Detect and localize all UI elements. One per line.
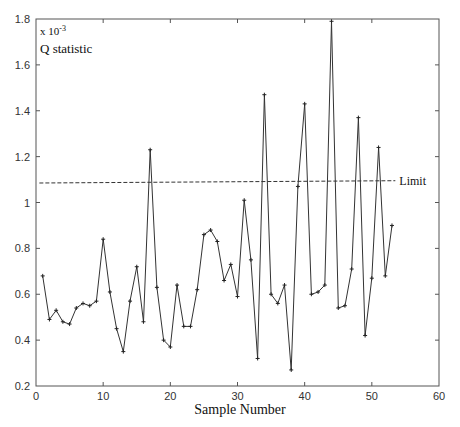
y-tick-label: 1 [24, 197, 30, 209]
y-tick-label: 1.8 [15, 13, 30, 25]
x-tick-label: 30 [231, 390, 243, 402]
x-axis-label: Sample Number [194, 402, 286, 417]
y-tick-label: 1.4 [15, 105, 30, 117]
y-quantity-label: Q statistic [40, 41, 93, 56]
x-tick-label: 50 [366, 390, 378, 402]
plot-area [36, 19, 439, 386]
y-tick-label: 1.2 [15, 151, 30, 163]
x-tick-label: 20 [164, 390, 176, 402]
x-tick-label: 60 [433, 390, 445, 402]
y-tick-label: 0.6 [15, 288, 30, 300]
x-tick-label: 10 [97, 390, 109, 402]
y-tick-label: 0.4 [15, 334, 30, 346]
x-tick-label: 40 [299, 390, 311, 402]
x-tick-label: 0 [33, 390, 39, 402]
q-statistic-chart: 0102030405060 0.20.40.60.811.21.41.61.8 … [0, 0, 460, 427]
y-tick-label: 0.2 [15, 380, 30, 392]
y-tick-label: 1.6 [15, 59, 30, 71]
y-tick-label: 0.8 [15, 242, 30, 254]
limit-label: Limit [399, 174, 426, 188]
